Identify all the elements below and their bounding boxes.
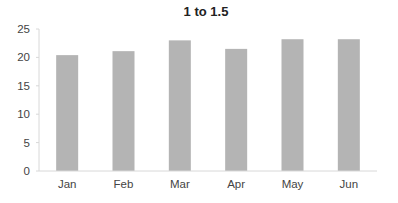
chart-title: 1 to 1.5 <box>184 4 229 19</box>
y-tick-label: 0 <box>24 165 30 177</box>
y-tick-label: 15 <box>17 80 30 92</box>
x-tick-label: Apr <box>227 178 245 190</box>
y-tick-label: 10 <box>17 108 30 120</box>
bar-feb <box>113 51 135 171</box>
x-tick-label: Jan <box>58 178 77 190</box>
y-tick-label: 5 <box>24 137 30 149</box>
bars <box>56 39 360 171</box>
bar-jan <box>56 55 78 171</box>
bar-may <box>282 39 304 171</box>
y-tick-label: 25 <box>17 23 30 35</box>
y-axis: 0510152025 <box>17 23 39 177</box>
bar-apr <box>225 49 247 171</box>
bar-mar <box>169 40 191 171</box>
x-axis: JanFebMarAprMayJun <box>39 171 377 190</box>
bar-jun <box>338 39 360 171</box>
x-tick-label: Mar <box>170 178 190 190</box>
x-tick-label: Feb <box>114 178 134 190</box>
y-tick-label: 20 <box>17 51 30 63</box>
x-tick-label: Jun <box>340 178 359 190</box>
x-tick-label: May <box>282 178 304 190</box>
bar-chart: 1 to 1.5 0510152025 JanFebMarAprMayJun <box>0 0 398 203</box>
